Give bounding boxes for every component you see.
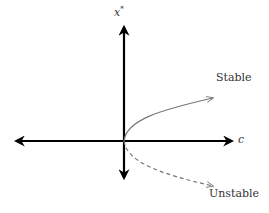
bifurcation-diagram: x* c Stable Unstable	[0, 0, 269, 213]
unstable-label: Unstable	[209, 187, 259, 200]
x-axis-label: c	[238, 133, 244, 146]
unstable-branch	[124, 141, 213, 186]
y-axis-label: x*	[114, 5, 124, 19]
stable-branch	[124, 98, 213, 141]
stable-label: Stable	[216, 71, 252, 84]
